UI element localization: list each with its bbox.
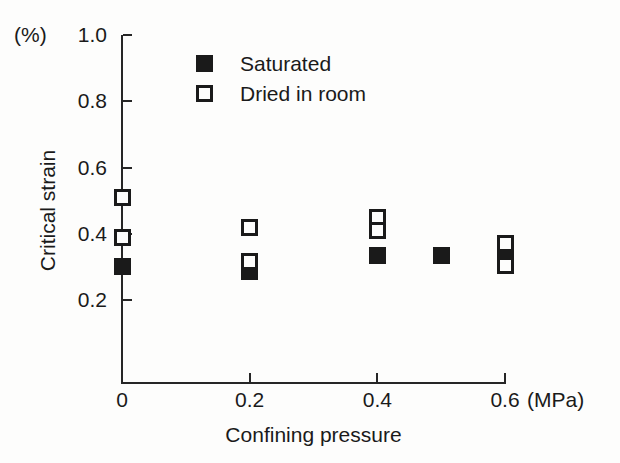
x-axis-line — [121, 382, 506, 384]
y-axis-title: Critical strain — [37, 101, 58, 321]
y-tick-label: 1.0 — [53, 24, 107, 45]
x-axis-title: Confining pressure — [121, 424, 506, 445]
legend-label: Dried in room — [240, 83, 366, 104]
x-tick-label: 0.2 — [215, 389, 285, 410]
data-point-filled — [369, 247, 386, 264]
data-point-open — [114, 189, 131, 206]
y-tick — [123, 167, 132, 169]
y-tick — [123, 34, 132, 36]
y-tick — [123, 100, 132, 102]
data-point-filled — [114, 258, 131, 275]
y-tick — [123, 299, 132, 301]
data-point-open — [114, 229, 131, 246]
y-tick-label: 0.4 — [53, 223, 107, 244]
data-point-open — [241, 219, 258, 236]
legend-swatch-filled — [196, 55, 213, 72]
data-point-open — [241, 253, 258, 270]
x-tick-label: 0 — [87, 389, 157, 410]
y-tick-label: 0.8 — [53, 90, 107, 111]
legend-item: Saturated — [196, 48, 366, 78]
x-tick — [376, 373, 378, 382]
legend: SaturatedDried in room — [196, 48, 366, 108]
x-tick — [504, 373, 506, 382]
data-point-open — [369, 222, 386, 239]
legend-item: Dried in room — [196, 78, 366, 108]
data-point-filled — [433, 247, 450, 264]
legend-label: Saturated — [240, 53, 331, 74]
y-axis-unit: (%) — [14, 24, 47, 45]
data-point-open — [497, 235, 514, 252]
x-tick — [249, 373, 251, 382]
legend-swatch-open — [196, 85, 213, 102]
x-tick-label: 0.6 — [470, 389, 540, 410]
x-tick-label: 0.4 — [342, 389, 412, 410]
y-axis-line — [121, 35, 123, 384]
y-tick-label: 0.6 — [53, 157, 107, 178]
y-tick-label: 0.2 — [53, 289, 107, 310]
critical-strain-scatter-chart: (%) Critical strain (MPa) Confining pres… — [0, 0, 620, 463]
data-point-open — [497, 257, 514, 274]
